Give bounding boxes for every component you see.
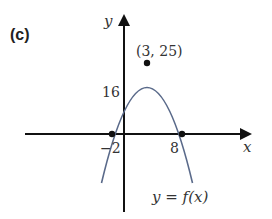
- y-intercept-label: 16: [102, 84, 120, 100]
- vertex-label: (3, 25): [136, 43, 183, 59]
- curve-label: y = f(x): [151, 188, 208, 206]
- x-axis-label: x: [243, 138, 252, 156]
- y-axis-label: y: [103, 12, 113, 30]
- x-intercept-right-point: [179, 131, 185, 137]
- y-axis-arrow-icon: [118, 14, 130, 26]
- parabola-curve: [102, 88, 193, 184]
- x-intercept-right-label: 8: [170, 140, 179, 156]
- graph: y x (3, 25) 16 −2 8 y = f(x): [0, 0, 272, 219]
- x-intercept-left-label: −2: [100, 140, 121, 156]
- x-intercept-left-point: [109, 131, 115, 137]
- vertex-point: [144, 60, 150, 66]
